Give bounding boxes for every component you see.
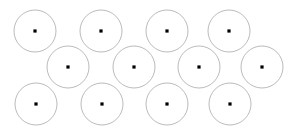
circle-center-dot [33,29,36,32]
lattice-circle [146,83,188,125]
circle-center-dot [132,65,135,68]
circle-center-dot [197,65,200,68]
circle-center-dot [99,29,102,32]
circle-center-dot [165,102,168,105]
lattice-circle [178,46,220,88]
circle-center-dot [227,29,230,32]
lattice-circle [113,46,155,88]
circle-center-dot [228,102,231,105]
lattice-circle [81,83,123,125]
circle-packing-diagram [0,0,296,134]
lattice-circle [209,83,251,125]
circles-layer [14,10,283,125]
circle-center-dot [100,102,103,105]
circle-center-dot [34,102,37,105]
lattice-circle [47,46,89,88]
diagram-svg-canvas [0,0,296,134]
lattice-circle [80,10,122,52]
lattice-circle [15,83,57,125]
lattice-circle [208,10,250,52]
circle-center-dot [66,65,69,68]
lattice-circle [241,46,283,88]
lattice-circle [146,10,188,52]
lattice-circle [14,10,56,52]
circle-center-dot [165,29,168,32]
circle-center-dot [260,65,263,68]
